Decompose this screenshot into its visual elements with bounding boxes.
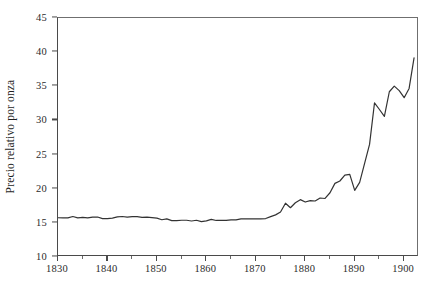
x-minor-tick-mark	[181, 256, 182, 259]
x-tick-mark	[354, 256, 355, 261]
chart-figure: Precio relativo por onza 101520253035404…	[0, 0, 437, 296]
y-tick-label: 35	[36, 80, 47, 91]
x-tick-label: 1880	[293, 263, 315, 274]
y-axis-ticks: 1015202530354045	[0, 0, 57, 296]
y-tick-label: 45	[36, 12, 47, 23]
x-tick-mark	[156, 256, 157, 261]
data-series-line	[58, 18, 419, 257]
y-tick-label: 40	[36, 46, 47, 57]
x-minor-tick-mark	[329, 256, 330, 259]
x-minor-tick-mark	[378, 256, 379, 259]
x-tick-label: 1830	[46, 263, 68, 274]
x-minor-tick-mark	[230, 256, 231, 259]
x-tick-mark	[255, 256, 256, 261]
x-tick-label: 1840	[96, 263, 118, 274]
x-minor-tick-mark	[131, 256, 132, 259]
x-tick-mark	[403, 256, 404, 261]
x-tick-mark	[205, 256, 206, 261]
x-minor-tick-mark	[82, 256, 83, 259]
y-tick-label: 30	[36, 114, 47, 125]
x-tick-label: 1870	[244, 263, 266, 274]
x-tick-label: 1860	[194, 263, 216, 274]
x-tick-mark	[304, 256, 305, 261]
x-tick-mark	[57, 256, 58, 261]
x-tick-label: 1850	[145, 263, 167, 274]
y-tick-label: 25	[36, 148, 47, 159]
y-tick-label: 15	[36, 216, 47, 227]
plot-area	[57, 17, 418, 256]
x-tick-mark	[106, 256, 107, 261]
x-tick-label: 1890	[343, 263, 365, 274]
x-tick-label: 1900	[392, 263, 414, 274]
y-tick-label: 20	[36, 182, 47, 193]
x-axis-ticks: 18301840185018601870188018901900	[0, 256, 437, 296]
x-minor-tick-mark	[280, 256, 281, 259]
